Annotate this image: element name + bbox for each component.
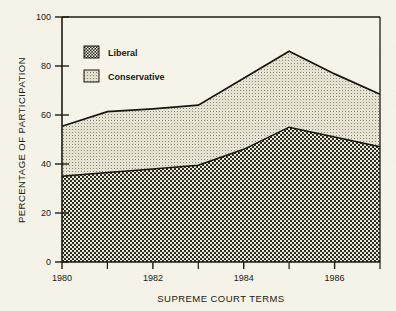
x-tick-label-1980: 1980 xyxy=(52,273,72,283)
legend-label-liberal: Liberal xyxy=(108,48,138,58)
y-tick-label-20: 20 xyxy=(41,208,51,218)
y-tick-label-0: 0 xyxy=(46,257,51,267)
x-tick-label-1986: 1986 xyxy=(325,273,345,283)
y-axis-title: PERCENTAGE OF PARTICIPATION xyxy=(16,57,27,223)
y-tick-label-100: 100 xyxy=(36,12,51,22)
legend-item-conservative: Conservative xyxy=(84,70,165,82)
x-axis-title: SUPREME COURT TERMS xyxy=(157,293,284,304)
legend-item-liberal: Liberal xyxy=(84,46,138,58)
y-tick-label-60: 60 xyxy=(41,110,51,120)
x-tick-label-1982: 1982 xyxy=(143,273,163,283)
legend-swatch-liberal xyxy=(84,46,99,58)
legend-swatch-conservative xyxy=(84,70,99,82)
x-tick-label-1984: 1984 xyxy=(234,273,254,283)
y-tick-label-80: 80 xyxy=(41,61,51,71)
legend-label-conservative: Conservative xyxy=(108,72,165,82)
chart-container: 0 20 40 60 80 100 1980 1982 1984 1986 PE… xyxy=(0,0,396,311)
y-tick-label-40: 40 xyxy=(41,159,51,169)
stacked-area-chart: 0 20 40 60 80 100 1980 1982 1984 1986 PE… xyxy=(0,0,396,311)
